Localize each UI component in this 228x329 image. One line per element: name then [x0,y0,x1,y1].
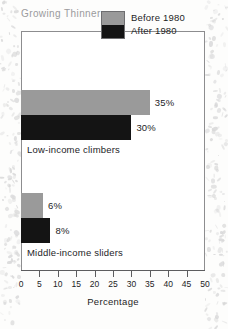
x-axis-tick-label: 5 [37,279,42,289]
x-axis-tick-label: 15 [71,279,80,289]
group-label: Middle-income sliders [27,247,123,258]
bar-value-label: 35% [155,90,175,115]
x-axis-tick [95,271,96,277]
x-axis-tick-label: 40 [163,279,172,289]
bar-before-1980 [21,193,43,218]
x-axis-tick-label: 50 [200,279,209,289]
x-axis-tick [168,271,169,277]
chart-title: Growing Thinner [21,8,101,19]
x-axis-tick-label: 45 [182,279,191,289]
legend-label-stack: Before 1980 After 1980 [131,11,185,37]
x-axis-tick-label: 10 [53,279,62,289]
legend-swatch-after-1980 [102,25,124,38]
x-axis-tick [113,271,114,277]
legend-label-after-1980: After 1980 [131,24,185,37]
x-axis: 05101520253035404550 [21,270,205,294]
bar-value-label: 8% [55,218,69,243]
x-axis-tick [150,271,151,277]
bar-after-1980 [21,218,50,243]
group-label: Low-income climbers [27,144,120,155]
x-axis-tick-label: 20 [90,279,99,289]
x-axis-tick-label: 0 [19,279,24,289]
bar-before-1980 [21,90,150,115]
bar-value-label: 6% [48,193,62,218]
x-axis-tick [39,271,40,277]
legend-label-before-1980: Before 1980 [131,11,185,24]
x-axis-tick-label: 35 [145,279,154,289]
bar-value-label: 30% [136,115,156,140]
chart-page: Growing Thinner Before 1980 After 1980 3… [0,0,228,329]
x-axis-tick [187,271,188,277]
x-axis-tick [58,271,59,277]
x-axis-tick [131,271,132,277]
chart-legend: Before 1980 After 1980 [101,11,185,39]
x-axis-title: Percentage [21,296,205,307]
bar-after-1980 [21,115,131,140]
legend-swatch-before-1980 [102,12,124,25]
x-axis-tick-label: 25 [108,279,117,289]
x-axis-tick [76,271,77,277]
legend-swatch-stack [101,11,125,39]
x-axis-tick-label: 30 [127,279,136,289]
